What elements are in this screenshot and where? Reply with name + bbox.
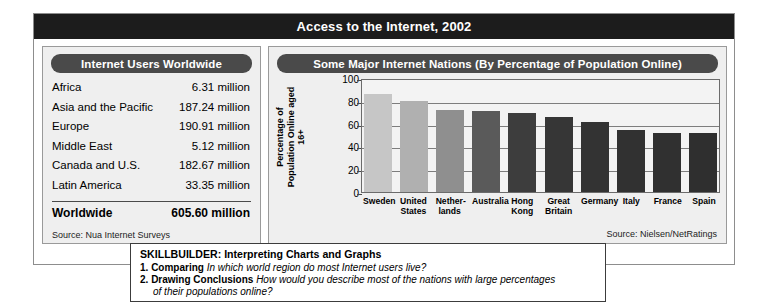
- x-axis-label: Sweden: [363, 196, 391, 216]
- plot-wrapper: 100806040200 SwedenUnitedStatesNether-la…: [333, 79, 720, 239]
- x-axis-label: GreatBritain: [545, 196, 573, 216]
- y-axis-tick-label: 100: [333, 74, 359, 85]
- table-row: Latin America33.35 million: [51, 179, 252, 199]
- table-region-label: Canada and U.S.: [52, 159, 140, 171]
- total-region-label: Worldwide: [52, 206, 112, 220]
- x-axis-label: Germany: [581, 196, 609, 216]
- skillbuilder-box: SKILLBUILDER: Interpreting Charts and Gr…: [130, 243, 606, 302]
- table-users-value: 190.91 million: [179, 120, 250, 132]
- bar-italy: [617, 130, 645, 192]
- x-axis-label: HongKong: [508, 196, 536, 216]
- x-axis-label: Spain: [690, 196, 718, 216]
- bar-spain: [689, 133, 717, 192]
- bar-australia: [472, 111, 500, 192]
- bar-series: [362, 80, 719, 192]
- bar-nether-lands: [436, 110, 464, 192]
- y-axis-title: Percentage of Population Online aged 16+: [275, 85, 297, 189]
- table-region-label: Latin America: [52, 179, 122, 191]
- page-root: Access to the Internet, 2002 Internet Us…: [0, 0, 769, 302]
- y-axis-tick-label: 20: [333, 165, 359, 176]
- bar-great-britain: [545, 117, 573, 192]
- chart-source-note: Source: Nielsen/NetRatings: [606, 229, 717, 239]
- table-users-value: 182.67 million: [179, 159, 250, 171]
- table-row: Asia and the Pacific187.24 million: [51, 101, 252, 121]
- table-region-label: Middle East: [52, 140, 112, 152]
- skillbuilder-question: 2. Drawing Conclusions How would you des…: [140, 274, 596, 286]
- skillbuilder-question: 1. Comparing In which world region do mo…: [140, 262, 596, 274]
- table-row: Middle East5.12 million: [51, 140, 252, 160]
- table-users-value: 6.31 million: [192, 81, 250, 93]
- y-axis-tick-mark: [357, 194, 362, 195]
- table-users-value: 33.35 million: [185, 179, 250, 191]
- bar-united-states: [400, 101, 428, 192]
- bar-france: [653, 133, 681, 192]
- table-row: Africa6.31 million: [51, 81, 252, 101]
- table-body: Africa6.31 millionAsia and the Pacific18…: [51, 81, 252, 198]
- bar-hong-kong: [508, 113, 536, 192]
- table-region-label: Asia and the Pacific: [52, 101, 153, 113]
- figure-container: Access to the Internet, 2002 Internet Us…: [33, 13, 735, 265]
- skillbuilder-question-continued: of their populations online?: [140, 286, 596, 298]
- table-total-separator: [52, 201, 251, 202]
- table-users-value: 187.24 million: [179, 101, 250, 113]
- table-panel-header: Internet Users Worldwide: [51, 54, 252, 73]
- table-region-label: Africa: [52, 81, 81, 93]
- bar-germany: [581, 122, 609, 192]
- x-axis-label: Australia: [472, 196, 500, 216]
- x-axis-labels: SwedenUnitedStatesNether-landsAustraliaH…: [361, 196, 720, 216]
- x-axis-label: Nether-lands: [436, 196, 464, 216]
- figure-title: Access to the Internet, 2002: [34, 14, 734, 39]
- bar-sweden: [364, 94, 392, 192]
- x-axis-label: Italy: [617, 196, 645, 216]
- y-axis-tick-label: 40: [333, 142, 359, 153]
- x-axis-label: UnitedStates: [399, 196, 427, 216]
- table-row: Canada and U.S.182.67 million: [51, 159, 252, 179]
- table-users-value: 5.12 million: [192, 140, 250, 152]
- chart-panel-header: Some Major Internet Nations (By Percenta…: [277, 54, 718, 73]
- table-row-total: Worldwide 605.60 million: [51, 206, 252, 224]
- chart-area: Percentage of Population Online aged 16+…: [277, 79, 720, 239]
- internet-users-table-panel: Internet Users Worldwide Africa6.31 mill…: [42, 46, 261, 244]
- table-row: Europe190.91 million: [51, 120, 252, 140]
- y-axis-tick-label: 60: [333, 120, 359, 131]
- y-axis-tick-label: 80: [333, 97, 359, 108]
- x-axis-label: France: [654, 196, 682, 216]
- internet-nations-chart-panel: Some Major Internet Nations (By Percenta…: [268, 46, 727, 244]
- table-source-note: Source: Nua Internet Surveys: [51, 230, 252, 240]
- plot-area: [361, 79, 720, 193]
- y-axis-tick-label: 0: [333, 188, 359, 199]
- total-users-value: 605.60 million: [171, 206, 250, 220]
- skillbuilder-questions: 1. Comparing In which world region do mo…: [140, 262, 596, 299]
- skillbuilder-title: SKILLBUILDER: Interpreting Charts and Gr…: [140, 248, 596, 260]
- table-region-label: Europe: [52, 120, 89, 132]
